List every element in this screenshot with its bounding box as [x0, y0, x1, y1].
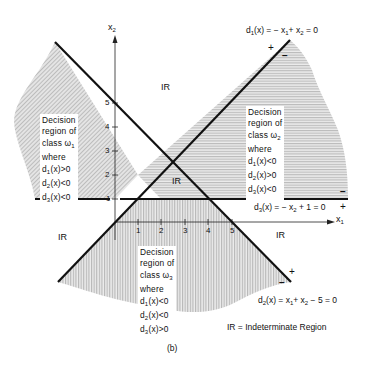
- d2-minus-sign: −: [279, 277, 285, 288]
- d1-equation: d1(x) = − x1+ x2 = 0: [246, 25, 318, 36]
- region-class1-label: Decision region of class ω1 where d1(x)>…: [40, 114, 78, 208]
- region-class2: [138, 40, 348, 199]
- d3-minus-sign: −: [340, 186, 346, 197]
- region-class3-label: Decision region of class ω3 where d1(x)<…: [138, 246, 176, 340]
- d2-equation: d2(x) = x1+ x2 − 5 = 0: [258, 295, 337, 306]
- y-tick-1: 1: [106, 194, 110, 203]
- legend-ir: IR = Indeterminate Region: [227, 322, 326, 332]
- region-class2-label: Decision region of class ω2 where d1(x)<…: [246, 106, 284, 200]
- x-tick-1: 1: [136, 226, 140, 235]
- x-tick-3: 3: [183, 226, 187, 235]
- ir-label-center: IR: [172, 176, 181, 186]
- x2-axis-label: x2: [108, 22, 116, 33]
- d1-plus-sign: +: [268, 42, 274, 53]
- figure-caption: (b): [167, 343, 177, 353]
- d2-plus-sign: +: [289, 266, 295, 277]
- y-tick-2: 2: [105, 170, 109, 179]
- x2-arrow-icon: [113, 35, 118, 43]
- x1-arrow-icon: [327, 220, 335, 225]
- y-tick-4: 4: [105, 122, 109, 131]
- y-tick-3: 3: [105, 146, 109, 155]
- ir-label-top: IR: [161, 82, 170, 92]
- d3-plus-sign: +: [340, 201, 346, 212]
- ir-label-right: IR: [276, 230, 285, 240]
- ir-label-left: IR: [58, 232, 67, 242]
- x-tick-2: 2: [159, 226, 163, 235]
- d3-equation: d3(x) = − x2 + 1 = 0: [254, 202, 325, 213]
- x1-axis-label: x1: [336, 214, 344, 225]
- x-tick-4: 4: [206, 226, 210, 235]
- x-tick-5: 5: [230, 226, 234, 235]
- y-tick-5: 5: [105, 98, 109, 107]
- d1-minus-sign: −: [282, 50, 288, 61]
